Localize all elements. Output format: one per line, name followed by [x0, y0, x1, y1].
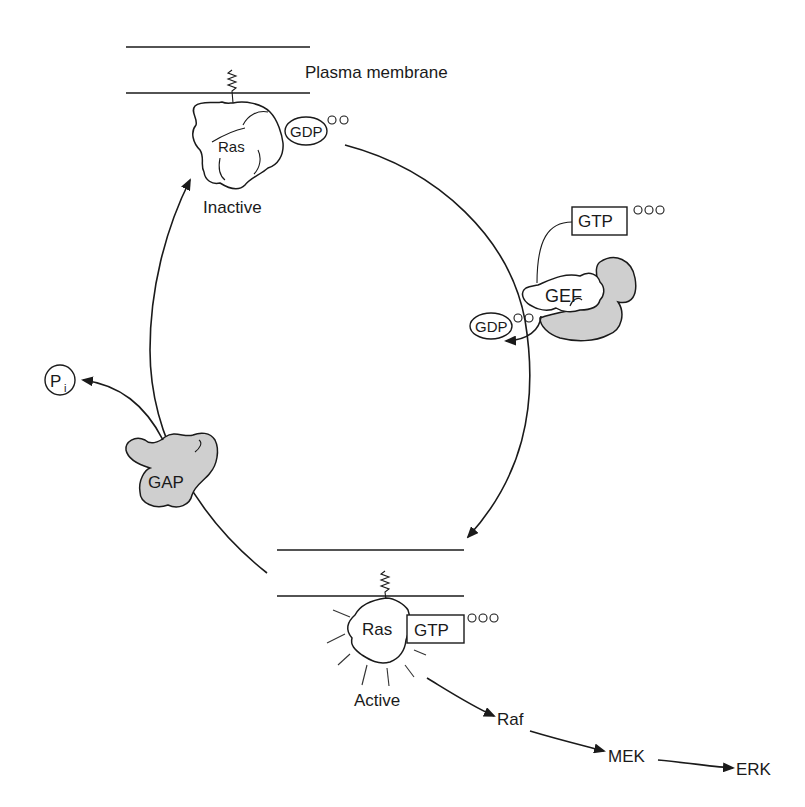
inactive-state-label: Inactive	[203, 198, 262, 217]
mapk-cascade: Raf MEK ERK	[427, 678, 772, 779]
active-ras: Ras GTP Active	[327, 571, 498, 710]
gef-complex: GEF GTP GDP	[470, 206, 664, 341]
active-ras-label: Ras	[362, 620, 392, 639]
gap-hydrolysis-arrow	[150, 180, 267, 573]
raf-to-mek-arrow	[530, 731, 604, 751]
cascade-raf: Raf	[497, 710, 524, 729]
lipid-anchor-icon	[228, 70, 236, 103]
mek-to-erk-arrow	[658, 760, 733, 768]
pi-subscript: i	[64, 382, 66, 394]
phosphate-icon	[634, 206, 642, 214]
active-state-label: Active	[354, 691, 400, 710]
inactive-gdp-label: GDP	[290, 123, 323, 140]
phosphate-icon	[525, 314, 533, 322]
plasma-membrane-label: Plasma membrane	[305, 63, 448, 82]
pi-release-arrow	[83, 380, 163, 440]
cascade-mek: MEK	[608, 747, 646, 766]
gef-label: GEF	[545, 286, 582, 306]
plasma-membrane-bottom	[277, 550, 464, 596]
phosphate-icon	[479, 614, 487, 622]
phosphate-icon	[514, 314, 522, 322]
ras-to-raf-arrow	[427, 678, 494, 716]
inactive-ras: Ras GDP Inactive	[193, 70, 348, 217]
gap-label: GAP	[148, 473, 184, 492]
gap-complex: GAP P i	[45, 365, 217, 507]
released-gdp-label: GDP	[475, 318, 508, 335]
phosphate-icon	[490, 614, 498, 622]
plasma-membrane-top: Plasma membrane	[126, 47, 448, 93]
phosphate-icon	[656, 206, 664, 214]
active-gtp-label: GTP	[414, 621, 449, 640]
incoming-gtp-label: GTP	[578, 212, 613, 231]
cascade-erk: ERK	[736, 760, 772, 779]
phosphate-icon	[340, 116, 348, 124]
ras-cycle-diagram: Plasma membrane Ras GDP Inactive GEF GTP…	[0, 0, 805, 807]
phosphate-icon	[645, 206, 653, 214]
phosphate-icon	[328, 116, 336, 124]
phosphate-icon	[468, 614, 476, 622]
gef-exchange-arrow	[345, 145, 530, 537]
pi-label: P	[50, 372, 61, 391]
inactive-ras-label: Ras	[218, 138, 245, 155]
gtp-entry-line	[537, 222, 572, 283]
